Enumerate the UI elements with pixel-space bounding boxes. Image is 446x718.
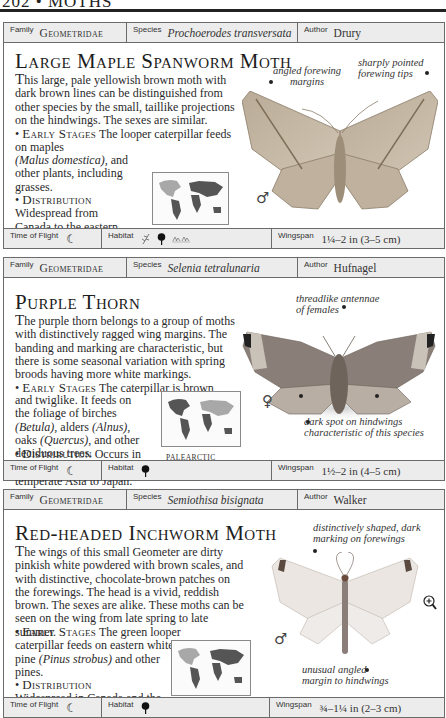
dropcap: T	[15, 71, 24, 87]
early-stages-continued: (Malus domestica), and other plants, inc…	[15, 154, 135, 194]
annotation-pointer-dot	[425, 71, 429, 75]
annotation-sharply-pointed-tips: sharply pointed forewing tips	[358, 57, 440, 79]
species-title: Purple Thorn	[15, 290, 140, 315]
species-cell: Species Semiothisa bisignata	[127, 490, 298, 509]
wingspan-value: 1¼–2 in (3–5 cm)	[322, 233, 401, 245]
female-symbol-icon: ♀	[262, 392, 273, 410]
classification-bar: Family Geometridae Species Semiothisa bi…	[4, 490, 444, 510]
family-value: Geometridae	[40, 494, 104, 506]
family-value: Geometridae	[40, 262, 104, 274]
world-map-icon	[172, 641, 250, 695]
species-label: Species	[133, 25, 161, 34]
early-stages-heading: Early Stages	[22, 126, 96, 141]
species-value: Prochoerodes transversata	[167, 27, 291, 39]
author-label: Author	[304, 25, 328, 34]
author-cell: Author Walker	[298, 490, 444, 509]
annotation-pointer-dot	[306, 420, 310, 424]
species-entry-purple-thorn: Family Geometridae Species Selenia tetra…	[3, 257, 445, 481]
annotation-pointer-dot	[365, 668, 369, 672]
early-stages-text: , alders	[54, 420, 92, 434]
habitat-cell: Habitat	[102, 698, 270, 717]
species-label: Species	[133, 492, 161, 501]
classification-bar: Family Geometridae Species Prochoerodes …	[4, 23, 444, 43]
species-label: Species	[133, 260, 161, 269]
scientific-name: (Quercus)	[40, 433, 88, 447]
annotation-dark-spot: dark spot on hindwings characteristic of…	[304, 416, 444, 438]
species-cell: Species Prochoerodes transversata	[127, 23, 298, 42]
zoom-in-button[interactable]	[423, 595, 437, 615]
distribution-heading: Distribution	[22, 192, 91, 207]
annotation-pointer-dot	[313, 549, 317, 553]
crescent-moon-icon: ☾	[66, 232, 77, 246]
annotation-dark-marking-forewings: distinctively shaped, dark marking on fo…	[313, 522, 423, 544]
habitat-label: Habitat	[108, 700, 133, 709]
family-label: Family	[10, 260, 34, 269]
wingspan-cell: Wingspan 1½–2 in (4–5 cm)	[272, 461, 444, 480]
classification-bar: Family Geometridae Species Selenia tetra…	[4, 258, 444, 278]
author-cell: Author Hufnagel	[298, 258, 444, 277]
scientific-name: (Malus domestica)	[15, 153, 105, 167]
time-of-flight-label: Time of Flight	[10, 231, 58, 240]
info-footer: Time of Flight ☾ Habitat Wingspan 1½–2 i…	[4, 460, 444, 480]
habitat-cell: Habitat	[102, 461, 272, 480]
wingspan-label: Wingspan	[278, 463, 314, 472]
tree-icon	[157, 233, 166, 245]
author-label: Author	[304, 260, 328, 269]
range-map	[152, 172, 229, 225]
time-of-flight-cell: Time of Flight ☾	[4, 229, 102, 248]
annotation-pointer-dot	[342, 305, 346, 309]
family-cell: Family Geometridae	[4, 23, 127, 42]
grass-icon	[141, 233, 151, 245]
author-cell: Author Drury	[298, 23, 444, 42]
info-footer: Time of Flight ☾ Habitat Wingspan ¾–1¼ i…	[4, 697, 444, 717]
tree-icon	[141, 465, 150, 477]
time-of-flight-label: Time of Flight	[10, 700, 58, 709]
annotation-angled-forewing-margins: angled forewing margins	[266, 65, 348, 87]
species-title: Large Maple Spanworm Moth	[15, 49, 291, 74]
author-value: Drury	[334, 27, 361, 39]
species-value: Selenia tetralunaria	[167, 262, 259, 274]
male-symbol-icon: ♂	[274, 630, 287, 648]
world-map-icon	[153, 173, 228, 224]
family-cell: Family Geometridae	[4, 490, 127, 509]
male-symbol-icon: ♂	[256, 189, 269, 207]
magnifier-plus-icon	[423, 595, 437, 611]
distribution-heading: Distribution	[22, 446, 91, 461]
world-map-icon	[162, 392, 240, 446]
distribution-heading: Distribution	[22, 677, 91, 692]
annotation-angled-margin-hindwings: unusual angled margin to hindwings	[302, 664, 392, 686]
time-of-flight-cell: Time of Flight ☾	[4, 698, 102, 717]
habitat-label: Habitat	[108, 463, 133, 472]
red-headed-inchworm-moth-image	[270, 552, 420, 662]
early-stages-section: • Early Stages The looper caterpillar fe…	[15, 127, 237, 155]
habitat-label: Habitat	[108, 231, 133, 240]
early-stages-heading: Early Stages	[22, 624, 96, 639]
tree-icon	[141, 702, 150, 714]
info-footer: Time of Flight ☾ Habitat Wingspan 1¼–2 i…	[4, 228, 444, 248]
grassland-icon	[172, 235, 190, 243]
species-cell: Species Selenia tetralunaria	[127, 258, 298, 277]
time-of-flight-label: Time of Flight	[10, 463, 58, 472]
wingspan-value: 1½–2 in (4–5 cm)	[322, 465, 401, 477]
time-of-flight-cell: Time of Flight ☾	[4, 461, 102, 480]
large-maple-spanworm-moth-image	[242, 91, 438, 221]
crescent-moon-icon: ☾	[66, 464, 77, 478]
wingspan-label: Wingspan	[278, 231, 314, 240]
author-label: Author	[304, 492, 328, 501]
species-description: The purple thorn belongs to a group of m…	[15, 314, 237, 381]
purple-thorn-moth-image	[241, 328, 437, 428]
crescent-moon-icon: ☾	[66, 701, 77, 715]
description-text: his large, pale yellowish brown moth wit…	[15, 73, 235, 127]
family-cell: Family Geometridae	[4, 258, 127, 277]
scientific-name: (Betula)	[15, 420, 54, 434]
habitat-cell: Habitat	[102, 229, 272, 248]
wingspan-cell: Wingspan 1¼–2 in (3–5 cm)	[272, 229, 444, 248]
header-rule	[0, 9, 446, 12]
family-label: Family	[10, 25, 34, 34]
species-title: Red-headed Inchworm Moth	[15, 521, 277, 546]
range-map	[161, 391, 241, 447]
scientific-name: (Pinus strobus)	[39, 652, 112, 666]
scientific-name: (Alnus)	[92, 420, 127, 434]
wingspan-cell: Wingspan ¾–1¼ in (2–3 cm)	[270, 698, 444, 717]
dropcap: T	[15, 543, 24, 559]
